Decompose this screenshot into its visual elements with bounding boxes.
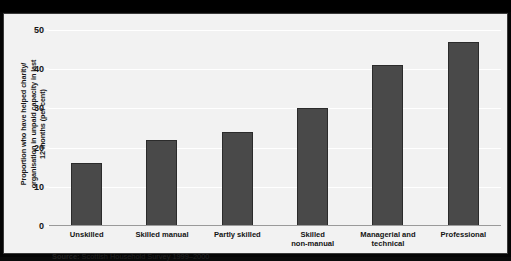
bar [146,140,177,226]
x-axis-label-line: Professional [441,230,487,239]
x-axis-label: Unskilled [49,230,124,248]
y-tick-label: 50 [34,25,44,35]
bar-slot [200,30,275,226]
x-axis-label-line: Managerial and [360,230,415,239]
bar [297,108,328,226]
x-axis-label-line: non-manual [291,239,334,248]
y-axis-label: Proportion who have helped charity/ orga… [19,0,49,28]
x-axis-label: Managerial andtechnical [350,230,425,248]
bar [372,65,403,226]
source-prefix: Source: [52,252,80,261]
bar [448,42,479,226]
x-axis-label-line: Partly skilled [214,230,261,239]
y-tick-label: 40 [34,64,44,74]
plot-area: Proportion who have helped charity/ orga… [49,30,501,226]
y-tick-label: 0 [39,221,44,231]
x-axis-label: Skillednon-manual [275,230,350,248]
bar [71,163,102,226]
bar-slot [275,30,350,226]
x-axis-label-line: Skilled manual [135,230,188,239]
y-tick-label: 10 [34,182,44,192]
chart-panel: Proportion who have helped charity/ orga… [3,13,508,254]
bar-slot [124,30,199,226]
bars-group [49,30,501,226]
x-axis-label-line: technical [372,239,405,248]
source-text: Scottish Household Survey 1999–2000 [82,252,210,261]
source-note: Source: Scottish Household Survey 1999–2… [52,252,209,261]
bar-slot [49,30,124,226]
bar-slot [350,30,425,226]
y-axis-label-line-2: organisation in unpaid capacity in last [29,60,38,189]
x-axis-label: Partly skilled [200,230,275,248]
bar [222,132,253,226]
x-axis-label: Skilled manual [124,230,199,248]
bar-slot [426,30,501,226]
x-axis-baseline [49,225,501,226]
x-axis-label-line: Skilled [300,230,324,239]
y-tick-label: 20 [34,143,44,153]
x-axis-labels: UnskilledSkilled manualPartly skilledSki… [49,230,501,248]
x-axis-label: Professional [426,230,501,248]
top-black-band [0,0,511,12]
y-axis-label-line-1: Proportion who have helped charity/ [19,63,28,186]
x-axis-label-line: Unskilled [70,230,104,239]
y-tick-label: 30 [34,103,44,113]
